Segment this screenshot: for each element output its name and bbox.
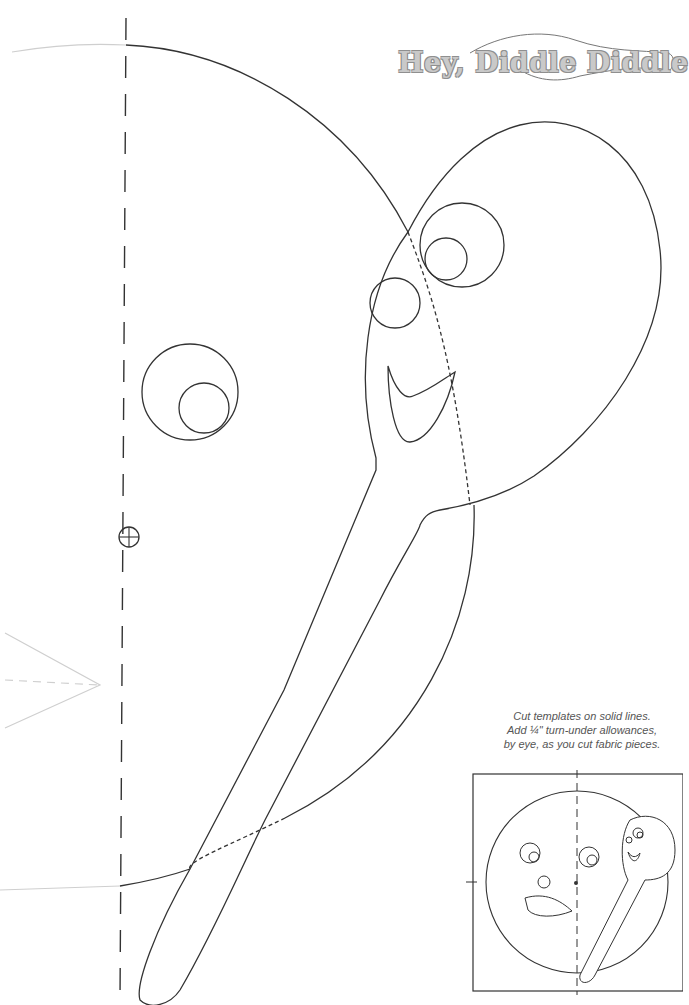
spoon-eye-inner <box>425 238 467 280</box>
title-banner: Hey, Diddle Diddle <box>388 40 683 88</box>
moon-face-outline-bottom <box>120 869 190 886</box>
ghost-moon-arc-bottom <box>0 886 120 890</box>
ghost-triangle-center-line <box>5 680 98 685</box>
spoon-outline <box>139 122 661 1005</box>
spoon-nose <box>370 278 420 328</box>
fold-line <box>120 18 126 1000</box>
moon-eye-inner <box>179 383 229 433</box>
page-title: Hey, Diddle Diddle <box>398 47 689 78</box>
instruction-line: Add ¼" turn-under allowances, <box>482 723 682 737</box>
placement-diagram <box>466 770 683 995</box>
moon-face-outline-lower <box>285 505 474 818</box>
cutting-instructions: Cut templates on solid lines. Add ¼" tur… <box>482 709 682 751</box>
registration-mark-icon <box>119 527 139 547</box>
spoon-handle-right-edge <box>280 505 475 990</box>
moon-face-outline <box>126 45 408 232</box>
instruction-line: Cut templates on solid lines. <box>482 709 682 723</box>
ghost-moon-arc-top <box>12 44 126 52</box>
moon-face-hidden-arc <box>408 232 470 505</box>
instruction-line: by eye, as you cut fabric pieces. <box>482 737 682 751</box>
spoon-mouth <box>388 366 455 442</box>
